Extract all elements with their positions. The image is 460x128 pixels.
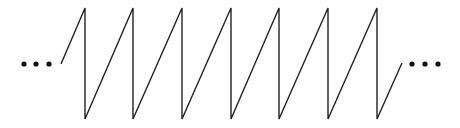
right-ellipsis-dot	[409, 61, 414, 66]
right-ellipsis-dot	[422, 61, 427, 66]
sawtooth-line	[61, 8, 402, 119]
sawtooth-diagram	[0, 0, 460, 128]
right-ellipsis-dot	[435, 61, 440, 66]
left-ellipsis-dot	[46, 61, 51, 66]
left-ellipsis-dot	[21, 61, 26, 66]
left-ellipsis-dot	[33, 61, 38, 66]
